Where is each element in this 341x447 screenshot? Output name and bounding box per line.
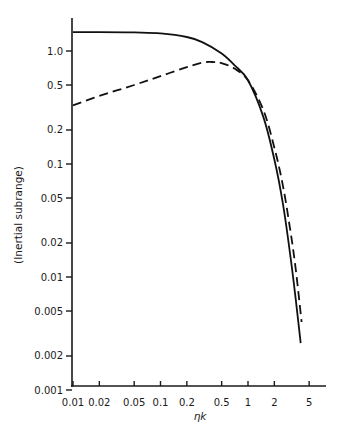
x-tick-label: 0.5 bbox=[214, 397, 230, 408]
y-tick-label: 0.1 bbox=[47, 159, 63, 170]
x-tick-label: 0.1 bbox=[153, 397, 169, 408]
x-tick-label: 0.02 bbox=[88, 397, 110, 408]
y-tick-label: 0.02 bbox=[41, 237, 63, 248]
x-tick-label: 0.2 bbox=[179, 397, 195, 408]
dashed-curve bbox=[73, 62, 302, 322]
x-tick-label: 0.05 bbox=[123, 397, 145, 408]
y-axis-label: (Inertial subrange) bbox=[12, 166, 24, 264]
y-tick-label: 0.2 bbox=[47, 124, 63, 135]
solid-curve bbox=[73, 32, 301, 343]
x-axis-label: ηk bbox=[194, 410, 208, 422]
y-tick-label: 0.002 bbox=[34, 350, 63, 361]
y-tick-label: 0.01 bbox=[41, 272, 63, 283]
y-tick-label: 0.5 bbox=[47, 80, 63, 91]
y-tick-label: 0.001 bbox=[34, 385, 63, 396]
y-tick-label: 0.005 bbox=[34, 306, 63, 317]
x-tick-label: 2 bbox=[271, 397, 277, 408]
x-tick-label: 0.01 bbox=[62, 397, 84, 408]
x-tick-label: 5 bbox=[306, 397, 312, 408]
line-chart: 1.00.50.20.10.050.020.010.0050.0020.0010… bbox=[0, 0, 341, 447]
x-tick-label: 1 bbox=[245, 397, 251, 408]
data-series bbox=[73, 32, 302, 343]
y-tick-label: 0.05 bbox=[41, 193, 63, 204]
y-tick-label: 1.0 bbox=[47, 46, 63, 57]
axes: 1.00.50.20.10.050.020.010.0050.0020.0010… bbox=[34, 18, 326, 408]
